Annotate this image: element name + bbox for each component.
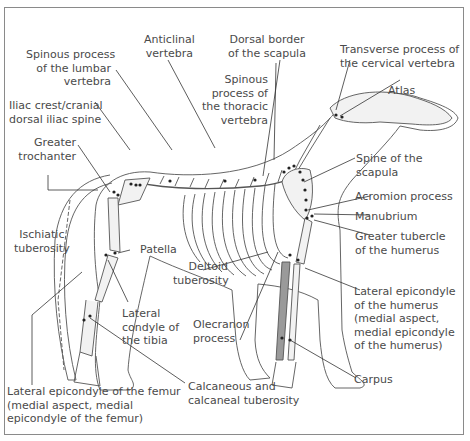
label-patella: Patella <box>140 243 177 257</box>
radius-ulna <box>276 262 290 360</box>
label-spine-of-scapula: Spine of thescapula <box>356 152 422 179</box>
label-ischiatic-tuberosity: Ischiatictuberosity <box>14 228 70 255</box>
label-carpus: Carpus <box>354 373 393 387</box>
label-acromion-process: Acromion process <box>355 190 453 204</box>
pelvis <box>118 178 150 205</box>
label-atlas: Atlas <box>388 84 415 98</box>
label-spinous-lumbar: Spinous processof the lumbarvertebra <box>26 48 111 89</box>
label-spinous-thoracic: Spinousprocess ofthe thoracicvertebra <box>200 73 268 127</box>
label-transverse-process-cervical: Transverse process ofthe cervical verteb… <box>340 43 459 70</box>
scapula <box>282 169 312 221</box>
label-greater-tubercle: Greater tubercleof the humerus <box>355 230 446 257</box>
label-anticlinal-vertebra: Anticlinalvertebra <box>144 33 195 60</box>
hind-paw <box>80 300 98 356</box>
label-manubrium: Manubrium <box>355 210 417 224</box>
label-dorsal-border-scapula: Dorsal borderof the scapula <box>228 33 306 60</box>
femur <box>108 198 120 252</box>
label-lateral-condyle-tibia: Lateralcondyle ofthe tibia <box>122 307 179 348</box>
label-lateral-epicondyle-humerus: Lateral epicondyleof the humerus(medial … <box>354 285 456 353</box>
humerus <box>296 218 312 264</box>
label-greater-trochanter: Greatertrochanter <box>10 136 76 163</box>
label-lateral-epicondyle-femur: Lateral epicondyle of the femur(medial a… <box>7 385 181 426</box>
tibia <box>95 255 118 302</box>
label-deltoid-tuberosity: Deltoidtuberosity <box>173 260 228 287</box>
label-iliac-crest: Iliac crest/cranialdorsal iliac spine <box>9 99 103 126</box>
label-olecranon-process: Olecranonprocess <box>193 318 249 345</box>
label-calcaneous: Calcaneous andcalcaneal tuberosity <box>188 380 299 407</box>
